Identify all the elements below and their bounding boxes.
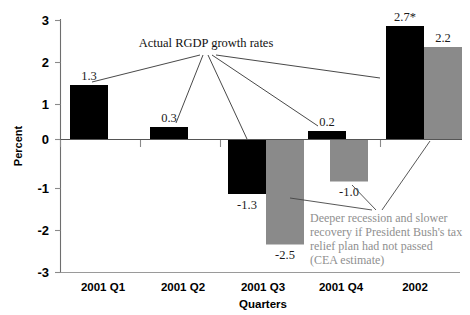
cea-callout-line-3: relief plan had not passed	[310, 239, 433, 253]
y-axis: 3 2 1 0 -1 -2 -3 Percent	[12, 13, 61, 280]
y-tick-label-neg1: -1	[37, 181, 49, 196]
bar-actual-2002	[386, 26, 424, 140]
cea-callout-line-4: (CEA estimate)	[310, 253, 384, 267]
leader-to-2001-q4	[212, 55, 318, 126]
bar-actual-2001-q4	[308, 131, 346, 140]
x-axis-title: Quarters	[239, 298, 287, 310]
bar-label-counterfactual-2002: 2.2	[435, 31, 451, 45]
leader-to-2001-q3	[208, 55, 247, 139]
y-tick-label-3: 3	[42, 13, 49, 28]
y-tick-label-neg2: -2	[37, 223, 49, 238]
bar-label-actual-2001-q2: 0.3	[161, 111, 177, 125]
bar-group-2001-q2: 0.3	[150, 111, 188, 140]
x-tick-label-2001-q1: 2001 Q1	[81, 281, 126, 293]
y-tick-label-0: 0	[42, 132, 49, 147]
rgdp-growth-bar-chart: 3 2 1 0 -1 -2 -3 Percent 1.3	[0, 0, 470, 315]
leader-to-2001-q1	[92, 55, 200, 82]
bar-actual-2001-q1	[70, 85, 108, 140]
cea-estimate-callout: Deeper recession and slower recovery if …	[290, 141, 462, 267]
bar-actual-2001-q3	[228, 140, 266, 195]
y-axis-title: Percent	[12, 125, 24, 166]
x-tick-label-2001-q2: 2001 Q2	[161, 281, 205, 293]
bar-counterfactual-2001-q3	[266, 140, 304, 245]
y-tick-label-1: 1	[42, 97, 49, 112]
y-tick-label-neg3: -3	[37, 265, 49, 280]
cea-callout-line-2: recovery if President Bush's tax	[310, 225, 462, 239]
x-tick-label-2001-q3: 2001 Q3	[241, 281, 285, 293]
y-tick-label-2: 2	[42, 55, 49, 70]
bar-label-actual-2001-q4: 0.2	[319, 115, 335, 129]
bar-label-counterfactual-2001-q3: -2.5	[275, 248, 295, 262]
bar-group-2001-q3: -1.3 -2.5	[228, 140, 304, 263]
bar-counterfactual-2002	[424, 47, 462, 140]
bar-group-2001-q4: 0.2 -1.0	[308, 115, 368, 199]
bar-group-2002: 2.7* 2.2	[386, 10, 462, 140]
leader-gray-to-2002	[382, 141, 430, 210]
cea-callout-line-1: Deeper recession and slower	[310, 211, 448, 225]
bar-label-actual-2002: 2.7*	[394, 10, 416, 24]
leader-to-2001-q2	[176, 55, 203, 123]
bar-actual-2001-q2	[150, 127, 188, 140]
bar-label-counterfactual-2001-q4: -1.0	[339, 185, 359, 199]
x-tick-label-2002: 2002	[402, 281, 428, 293]
x-axis: 2001 Q1 2001 Q2 2001 Q3 2001 Q4 2002 Qua…	[81, 281, 428, 310]
bar-counterfactual-2001-q4	[330, 140, 368, 182]
bar-label-actual-2001-q1: 1.3	[81, 69, 97, 83]
actual-series-callout: Actual RGDP growth rates	[92, 36, 380, 139]
actual-series-callout-text: Actual RGDP growth rates	[139, 36, 274, 50]
bar-label-actual-2001-q3: -1.3	[237, 198, 257, 212]
chart-canvas: 3 2 1 0 -1 -2 -3 Percent 1.3	[0, 0, 470, 315]
x-tick-label-2001-q4: 2001 Q4	[319, 281, 364, 293]
